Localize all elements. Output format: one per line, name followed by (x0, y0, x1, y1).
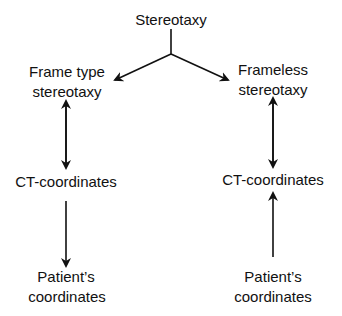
frame-type-label-line2: stereotaxy (32, 82, 101, 102)
left-patient-label-line1: Patient’s (37, 267, 94, 287)
arrow-to-frameless (171, 54, 228, 80)
frame-type-label-line1: Frame type (29, 62, 105, 82)
stereotaxy-diagram: Stereotaxy Frame type stereotaxy CT-coor… (0, 0, 342, 316)
right-patient-label-line2: coordinates (234, 287, 312, 307)
frameless-label-line1: Frameless (238, 60, 308, 80)
left-ct-coordinates-label: CT-coordinates (15, 172, 117, 192)
left-patient-label-line2: coordinates (28, 287, 106, 307)
right-ct-coordinates-label: CT-coordinates (222, 170, 324, 190)
root-label: Stereotaxy (135, 10, 207, 30)
arrow-to-frame-type (115, 54, 171, 80)
frameless-label-line2: stereotaxy (238, 80, 307, 100)
right-patient-label-line1: Patient’s (244, 267, 301, 287)
